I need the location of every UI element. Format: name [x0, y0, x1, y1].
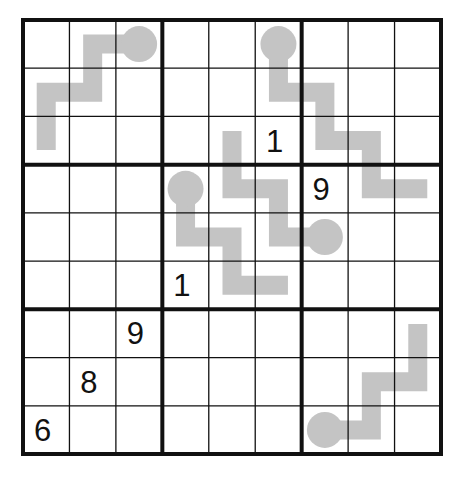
- cell-r5c5[interactable]: [209, 213, 255, 261]
- cell-r8c3[interactable]: [116, 358, 162, 406]
- cell-r4c4[interactable]: [162, 165, 208, 213]
- cell-r5c9[interactable]: [395, 213, 441, 261]
- cell-r2c7[interactable]: [302, 68, 348, 116]
- cell-r1c8[interactable]: [348, 20, 394, 68]
- cell-r2c8[interactable]: [348, 68, 394, 116]
- cell-r3c8[interactable]: [348, 116, 394, 164]
- cell-r7c8[interactable]: [348, 309, 394, 357]
- cell-r9c8[interactable]: [348, 406, 394, 454]
- cell-r9c2[interactable]: [69, 406, 115, 454]
- cell-r7c2[interactable]: [69, 309, 115, 357]
- cell-r9c6[interactable]: [255, 406, 301, 454]
- cell-r9c7[interactable]: [302, 406, 348, 454]
- given-digit-r3c6: 1: [266, 124, 283, 159]
- cell-r7c4[interactable]: [162, 309, 208, 357]
- given-digit-r7c3: 9: [127, 316, 144, 351]
- cell-r4c5[interactable]: [209, 165, 255, 213]
- cell-r7c7[interactable]: [302, 309, 348, 357]
- cell-r1c9[interactable]: [395, 20, 441, 68]
- cell-r8c5[interactable]: [209, 358, 255, 406]
- cell-r9c5[interactable]: [209, 406, 255, 454]
- cell-r6c1[interactable]: [23, 261, 69, 309]
- cell-r2c4[interactable]: [162, 68, 208, 116]
- cell-r8c9[interactable]: [395, 358, 441, 406]
- cell-r5c4[interactable]: [162, 213, 208, 261]
- cell-r4c9[interactable]: [395, 165, 441, 213]
- cell-r6c8[interactable]: [348, 261, 394, 309]
- cell-r5c7[interactable]: [302, 213, 348, 261]
- cell-r5c2[interactable]: [69, 213, 115, 261]
- cell-r1c6[interactable]: [255, 20, 301, 68]
- cell-r6c6[interactable]: [255, 261, 301, 309]
- cell-r1c7[interactable]: [302, 20, 348, 68]
- cell-r5c1[interactable]: [23, 213, 69, 261]
- cell-r6c5[interactable]: [209, 261, 255, 309]
- given-digit-r6c4: 1: [173, 268, 190, 303]
- cell-r1c4[interactable]: [162, 20, 208, 68]
- cell-r8c8[interactable]: [348, 358, 394, 406]
- cell-r6c2[interactable]: [69, 261, 115, 309]
- cell-r4c3[interactable]: [116, 165, 162, 213]
- cell-r3c1[interactable]: [23, 116, 69, 164]
- cell-r6c7[interactable]: [302, 261, 348, 309]
- cell-r1c3[interactable]: [116, 20, 162, 68]
- cell-r6c3[interactable]: [116, 261, 162, 309]
- cell-r9c3[interactable]: [116, 406, 162, 454]
- cell-r3c5[interactable]: [209, 116, 255, 164]
- cell-r8c6[interactable]: [255, 358, 301, 406]
- cell-r7c1[interactable]: [23, 309, 69, 357]
- cell-r3c4[interactable]: [162, 116, 208, 164]
- given-digit-r9c1: 6: [34, 413, 51, 448]
- cell-r7c6[interactable]: [255, 309, 301, 357]
- cell-r3c9[interactable]: [395, 116, 441, 164]
- cell-r6c9[interactable]: [395, 261, 441, 309]
- cell-r2c6[interactable]: [255, 68, 301, 116]
- cell-r1c2[interactable]: [69, 20, 115, 68]
- cell-r4c1[interactable]: [23, 165, 69, 213]
- cell-r8c7[interactable]: [302, 358, 348, 406]
- cell-r1c5[interactable]: [209, 20, 255, 68]
- cell-r3c3[interactable]: [116, 116, 162, 164]
- cell-r2c9[interactable]: [395, 68, 441, 116]
- cell-r3c2[interactable]: [69, 116, 115, 164]
- cell-r4c6[interactable]: [255, 165, 301, 213]
- given-digit-r4c7: 9: [313, 172, 330, 207]
- cell-r7c9[interactable]: [395, 309, 441, 357]
- sudoku-board: 191986: [0, 0, 461, 479]
- cell-r3c7[interactable]: [302, 116, 348, 164]
- cell-r2c1[interactable]: [23, 68, 69, 116]
- cell-r2c2[interactable]: [69, 68, 115, 116]
- cell-r5c3[interactable]: [116, 213, 162, 261]
- cell-r8c1[interactable]: [23, 358, 69, 406]
- cell-r4c8[interactable]: [348, 165, 394, 213]
- cell-r4c2[interactable]: [69, 165, 115, 213]
- cell-r9c4[interactable]: [162, 406, 208, 454]
- cell-r1c1[interactable]: [23, 20, 69, 68]
- cell-r5c8[interactable]: [348, 213, 394, 261]
- cell-r2c5[interactable]: [209, 68, 255, 116]
- cell-r8c4[interactable]: [162, 358, 208, 406]
- cell-r7c5[interactable]: [209, 309, 255, 357]
- given-digit-r8c2: 8: [80, 365, 97, 400]
- cell-r5c6[interactable]: [255, 213, 301, 261]
- cell-r9c9[interactable]: [395, 406, 441, 454]
- cell-r2c3[interactable]: [116, 68, 162, 116]
